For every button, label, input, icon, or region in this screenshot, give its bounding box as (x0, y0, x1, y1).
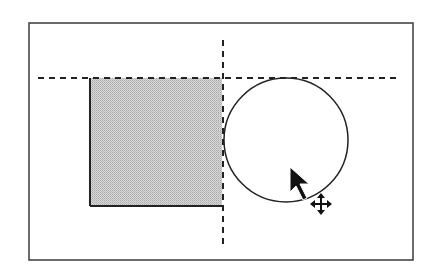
shaded-rectangle[interactable] (90, 78, 222, 206)
drawing-canvas[interactable] (0, 0, 430, 270)
